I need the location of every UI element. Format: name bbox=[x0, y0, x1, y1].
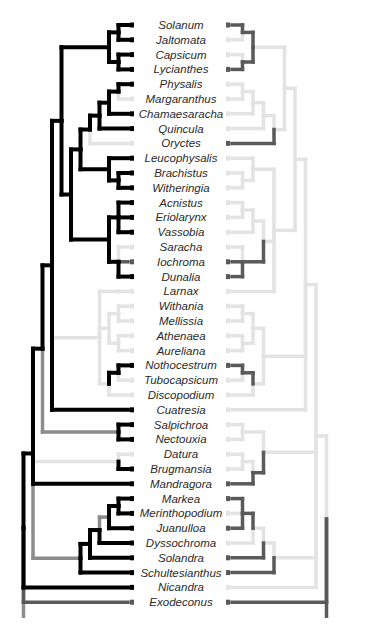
taxon-label: Chamaesaracha bbox=[128, 107, 234, 121]
taxon-label: Iochroma bbox=[128, 255, 234, 269]
taxon-label: Tubocapsicum bbox=[128, 373, 234, 387]
taxon-label: Aureliana bbox=[128, 344, 234, 358]
taxon-label: Witheringia bbox=[128, 181, 234, 195]
taxon-label: Juanulloa bbox=[128, 521, 234, 535]
taxon-label: Oryctes bbox=[128, 136, 234, 150]
taxon-label: Cuatresia bbox=[128, 403, 234, 417]
taxon-label: Vassobia bbox=[128, 225, 234, 239]
taxon-label: Larnax bbox=[128, 284, 234, 298]
taxon-label: Capsicum bbox=[128, 48, 234, 62]
taxon-label: Leucophysalis bbox=[128, 151, 234, 165]
taxon-label: Quincula bbox=[128, 122, 234, 136]
taxon-label: Eriolarynx bbox=[128, 210, 234, 224]
taxon-label: Markea bbox=[128, 492, 234, 506]
taxon-label: Schultesianthus bbox=[128, 566, 234, 580]
taxon-label: Margaranthus bbox=[128, 92, 234, 106]
taxon-label: Salpichroa bbox=[128, 418, 234, 432]
taxon-label: Jaltomata bbox=[128, 33, 234, 47]
taxon-label: Nothocestrum bbox=[128, 358, 234, 372]
taxon-label: Mellissia bbox=[128, 314, 234, 328]
taxon-label: Solanum bbox=[128, 18, 234, 32]
taxon-label: Merinthopodium bbox=[128, 506, 234, 520]
cladogram-figure: SolanumJaltomataCapsicumLycianthesPhysal… bbox=[0, 0, 365, 641]
taxon-label: Mandragora bbox=[128, 477, 234, 491]
taxon-label: Athenaea bbox=[128, 329, 234, 343]
figure-caption-cutoff bbox=[12, 634, 352, 641]
taxon-label: Brugmansia bbox=[128, 462, 234, 476]
taxon-label: Nectouxia bbox=[128, 432, 234, 446]
taxon-label: Dyssochroma bbox=[128, 536, 234, 550]
taxon-label: Dunalia bbox=[128, 270, 234, 284]
taxon-label: Datura bbox=[128, 447, 234, 461]
taxon-label: Saracha bbox=[128, 240, 234, 254]
taxon-label: Discopodium bbox=[128, 388, 234, 402]
taxon-label: Exodeconus bbox=[128, 595, 234, 609]
taxon-label: Solandra bbox=[128, 551, 234, 565]
taxon-label: Brachistus bbox=[128, 166, 234, 180]
taxon-label: Withania bbox=[128, 299, 234, 313]
taxon-label: Nicandra bbox=[128, 580, 234, 594]
taxon-label: Lycianthes bbox=[128, 62, 234, 76]
taxon-label: Acnistus bbox=[128, 196, 234, 210]
taxon-label: Physalis bbox=[128, 77, 234, 91]
